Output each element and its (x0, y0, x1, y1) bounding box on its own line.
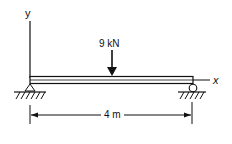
load-label: 9 kN (99, 39, 120, 49)
roller-support-icon (178, 84, 206, 99)
pin-support-icon (14, 84, 46, 99)
y-axis-label: y (25, 8, 31, 18)
beam-diagram (0, 0, 232, 144)
x-axis-label: x (213, 75, 219, 85)
beam (30, 77, 193, 84)
load-arrow-icon (107, 50, 117, 76)
dimension-label: 4 m (101, 110, 124, 120)
